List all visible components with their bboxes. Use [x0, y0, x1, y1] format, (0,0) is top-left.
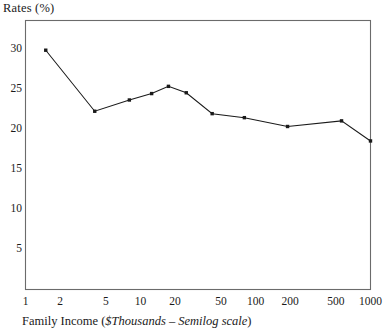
data-point-2 [128, 98, 131, 101]
data-point-1 [93, 110, 96, 113]
data-line [46, 50, 371, 141]
data-point-10 [369, 139, 372, 142]
data-point-3 [150, 92, 153, 95]
plot-frame [26, 21, 371, 290]
data-point-0 [44, 49, 47, 52]
plot-area [0, 0, 383, 334]
data-point-6 [210, 112, 213, 115]
data-point-8 [286, 125, 289, 128]
chart-figure: Rates (%) Family Income ($Thousands – Se… [0, 0, 383, 334]
data-point-4 [167, 85, 170, 88]
data-point-7 [243, 116, 246, 119]
data-point-5 [185, 91, 188, 94]
data-point-9 [340, 119, 343, 122]
data-markers [44, 49, 372, 143]
